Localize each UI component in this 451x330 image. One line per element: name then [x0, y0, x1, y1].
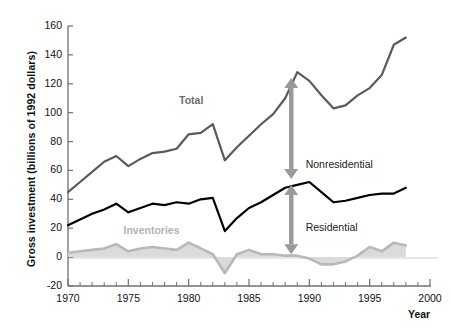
x-tick-label: 1995	[350, 292, 390, 304]
inventories-label: Inventories	[124, 224, 180, 236]
total-label: Total	[179, 94, 203, 106]
y-tick-label: 60	[28, 163, 62, 175]
y-tick-label: 0	[28, 250, 62, 262]
residential-arrow	[284, 185, 298, 254]
y-tick-label: 80	[28, 135, 62, 147]
x-tick-label: 1980	[169, 292, 209, 304]
y-tick-label: 120	[28, 77, 62, 89]
annotation-arrows-layer	[284, 78, 298, 254]
x-tick-label: 2000	[410, 292, 450, 304]
chart-plot-area	[0, 0, 451, 330]
x-axis-major-ticks	[68, 279, 430, 286]
y-tick-label: -20	[28, 279, 62, 291]
y-tick-label: 100	[28, 106, 62, 118]
y-tick-label: 40	[28, 192, 62, 204]
nonresidential-label: Nonresidential	[306, 158, 373, 170]
y-tick-label: 20	[28, 221, 62, 233]
y-tick-label: 160	[28, 19, 62, 31]
data-series-layer	[68, 38, 406, 273]
residential-label: Residential	[306, 221, 358, 233]
x-tick-label: 1990	[289, 292, 329, 304]
x-axis-title: Year	[408, 308, 430, 320]
x-tick-label: 1970	[48, 292, 88, 304]
x-tick-label: 1985	[229, 292, 269, 304]
y-axis-ticks	[68, 26, 73, 286]
y-tick-label: 140	[28, 48, 62, 60]
x-tick-label: 1975	[108, 292, 148, 304]
chart-figure: Gross investment (billions of 1992 dolla…	[0, 0, 451, 330]
